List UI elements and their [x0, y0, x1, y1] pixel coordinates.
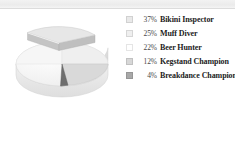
legend-percent-bikini-inspector: 37% — [137, 15, 157, 24]
legend-label-beer-hunter: Beer Hunter — [160, 43, 202, 52]
legend-swatch-muff-diver — [126, 30, 133, 37]
legend-label-bikini-inspector: Bikini Inspector — [160, 15, 214, 24]
legend-label-breakdance-champion: Breakdance Champion — [160, 71, 235, 80]
legend-item-kegstand-champion[interactable]: 12% Kegstand Champion — [126, 54, 233, 68]
top-band-rule — [0, 8, 235, 9]
legend-percent-breakdance-champion: 4% — [137, 71, 157, 80]
pie-chart-figure: 37% Bikini Inspector 25% Muff Diver 22% … — [0, 0, 235, 145]
legend-label-muff-diver: Muff Diver — [160, 29, 197, 38]
legend-item-bikini-inspector[interactable]: 37% Bikini Inspector — [126, 12, 233, 26]
legend-swatch-beer-hunter — [126, 44, 133, 51]
pie-svg — [6, 12, 124, 104]
legend-label-kegstand-champion: Kegstand Champion — [160, 57, 229, 66]
legend-percent-muff-diver: 25% — [137, 29, 157, 38]
pie-graphic — [6, 12, 124, 104]
pie-legend: 37% Bikini Inspector 25% Muff Diver 22% … — [126, 12, 233, 82]
legend-item-beer-hunter[interactable]: 22% Beer Hunter — [126, 40, 233, 54]
legend-swatch-kegstand-champion — [126, 58, 133, 65]
legend-percent-kegstand-champion: 12% — [137, 57, 157, 66]
legend-item-muff-diver[interactable]: 25% Muff Diver — [126, 26, 233, 40]
legend-swatch-bikini-inspector — [126, 16, 133, 23]
legend-percent-beer-hunter: 22% — [137, 43, 157, 52]
legend-item-breakdance-champion[interactable]: 4% Breakdance Champion — [126, 68, 233, 82]
legend-swatch-breakdance-champion — [126, 72, 133, 79]
